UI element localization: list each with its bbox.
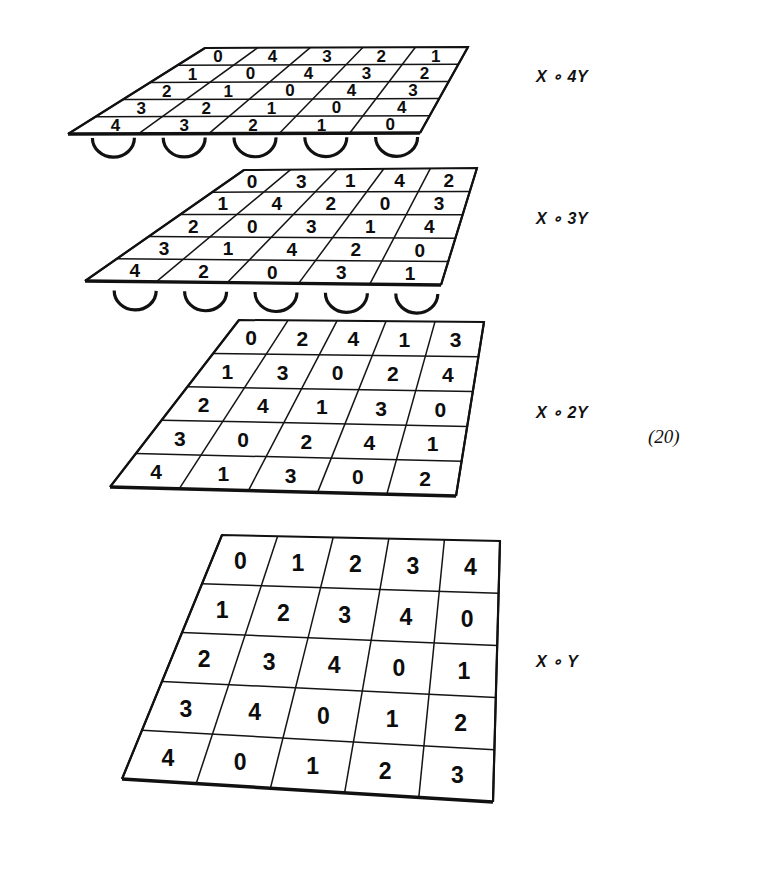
cell-value: 1 <box>216 597 229 623</box>
cell-value: 1 <box>188 65 197 84</box>
cell-value: 3 <box>285 464 297 487</box>
cell-value: 4 <box>397 98 407 117</box>
cell-value: 3 <box>338 602 351 628</box>
cell-value: 1 <box>317 116 326 135</box>
cell-value: 1 <box>427 432 439 455</box>
cell-value: 2 <box>350 239 361 260</box>
plate-supports-x-3y <box>114 290 438 313</box>
cell-value: 4 <box>442 363 454 386</box>
cell-value: 2 <box>202 99 211 118</box>
cell-value: 3 <box>174 427 186 450</box>
cell-value: 4 <box>304 64 314 83</box>
cell-value: 2 <box>198 646 211 672</box>
cell-value: 0 <box>245 326 257 349</box>
plate-support-arc <box>255 292 297 312</box>
cell-value: 3 <box>263 649 276 675</box>
cell-value: 0 <box>213 47 222 66</box>
cell-value: 4 <box>287 239 298 260</box>
cell-value: 3 <box>408 81 417 100</box>
cell-value: 0 <box>285 81 294 100</box>
cell-value: 1 <box>224 82 233 101</box>
plate-support-arc <box>163 138 205 157</box>
cell-value: 4 <box>111 116 121 135</box>
cell-value: 3 <box>450 328 462 351</box>
plate-x-y: 0123412340234013401240123 <box>122 535 500 802</box>
plate-support-arc <box>305 137 347 156</box>
cell-value: 2 <box>379 758 392 784</box>
cell-value: 2 <box>188 216 199 237</box>
cell-value: 1 <box>316 395 328 418</box>
cell-value: 3 <box>136 99 145 118</box>
cell-value: 3 <box>179 116 188 135</box>
cell-value: 4 <box>150 460 162 483</box>
cell-value: 2 <box>387 362 399 385</box>
cell-value: 3 <box>277 361 289 384</box>
plate-support-arc <box>114 290 156 310</box>
cell-value: 4 <box>394 170 405 191</box>
cell-value: 4 <box>347 327 359 350</box>
cell-value: 0 <box>414 240 425 261</box>
layer-label-x-y: X ∘ Y <box>536 652 578 671</box>
plate-support-arc <box>396 294 438 314</box>
cell-value: 3 <box>362 64 371 83</box>
cell-value: 2 <box>377 47 386 66</box>
cell-value: 3 <box>322 47 331 66</box>
cell-value: 2 <box>277 600 290 626</box>
cell-value: 1 <box>458 658 471 684</box>
cell-value: 1 <box>365 216 376 237</box>
cell-value: 0 <box>246 64 255 83</box>
layer-label-x-2y: X ∘ 2Y <box>536 403 588 422</box>
cell-value: 4 <box>161 745 174 771</box>
cell-value: 2 <box>419 467 431 490</box>
cell-value: 1 <box>405 263 416 284</box>
cell-value: 0 <box>352 465 364 488</box>
cell-value: 2 <box>296 327 308 350</box>
plate-support-arc <box>325 293 367 313</box>
cell-value: 1 <box>217 462 229 485</box>
cell-value: 1 <box>386 706 399 732</box>
cell-value: 4 <box>129 260 140 281</box>
plate-x-2y: 0241313024241303024141302 <box>110 320 484 496</box>
cell-value: 3 <box>451 762 464 788</box>
cell-value: 0 <box>234 749 247 775</box>
cell-value: 2 <box>198 261 209 282</box>
cell-value: 4 <box>271 193 282 214</box>
cell-value: 3 <box>306 216 317 237</box>
cell-value: 1 <box>399 328 411 351</box>
cell-value: 0 <box>434 398 446 421</box>
cell-value: 1 <box>223 238 234 259</box>
plate-supports-x-4y <box>92 137 417 157</box>
cell-value: 1 <box>431 47 440 66</box>
cell-value: 0 <box>247 171 258 192</box>
cell-value: 1 <box>345 170 356 191</box>
cell-value: 4 <box>248 699 261 725</box>
cell-value: 4 <box>268 47 278 66</box>
cell-value: 1 <box>306 753 319 779</box>
cell-value: 2 <box>198 393 210 416</box>
cell-value: 0 <box>332 98 341 117</box>
plate-support-arc <box>92 138 134 157</box>
layer-label-x-3y: X ∘ 3Y <box>536 209 588 228</box>
cell-value: 2 <box>162 82 171 101</box>
cell-value: 3 <box>375 397 387 420</box>
cell-value: 4 <box>257 394 269 417</box>
cell-value: 0 <box>332 361 344 384</box>
cell-value: 4 <box>328 652 341 678</box>
cell-value: 3 <box>159 238 170 259</box>
cell-value: 1 <box>292 550 305 576</box>
cell-value: 2 <box>349 551 362 577</box>
cell-value: 0 <box>267 262 278 283</box>
cell-value: 4 <box>364 431 376 454</box>
plate-support-arc <box>376 137 418 156</box>
cell-value: 0 <box>237 428 249 451</box>
cell-value: 2 <box>300 430 312 453</box>
cell-value: 2 <box>248 116 257 135</box>
cell-value: 4 <box>347 81 357 100</box>
figure-root: 0432110432210433210443210031421420320314… <box>0 0 782 873</box>
cell-value: 1 <box>267 99 276 118</box>
cell-value: 2 <box>454 710 467 736</box>
cell-value: 2 <box>420 64 429 83</box>
cell-value: 3 <box>336 262 347 283</box>
cell-value: 0 <box>380 193 391 214</box>
cell-value: 3 <box>434 193 445 214</box>
